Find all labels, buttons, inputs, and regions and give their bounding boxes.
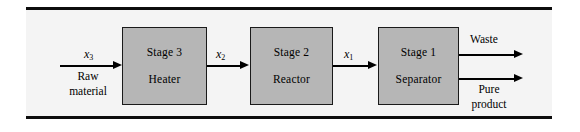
stage3-subtitle: Heater bbox=[123, 73, 206, 85]
process-flow-diagram: x3 Raw material Stage 3 Heater x2 Stage … bbox=[0, 0, 580, 132]
stream-label-x2: x2 bbox=[216, 47, 225, 62]
arrow-shaft-waste bbox=[459, 54, 515, 56]
arrow-head-x2 bbox=[240, 61, 249, 69]
figure-bottom-rule bbox=[26, 116, 552, 119]
output-label-waste: Waste bbox=[470, 33, 498, 45]
stream-label-x1: x1 bbox=[344, 47, 353, 62]
stream-label-x3: x3 bbox=[84, 47, 93, 62]
stage-box-stage1[interactable]: Stage 1 Separator bbox=[378, 27, 459, 105]
input-label-line2: material bbox=[52, 85, 124, 97]
stage-box-stage2[interactable]: Stage 2 Reactor bbox=[250, 27, 333, 105]
arrow-shaft-x2 bbox=[207, 65, 241, 67]
figure-top-rule bbox=[26, 7, 552, 10]
arrow-head-pure-product bbox=[514, 74, 523, 82]
stage1-subtitle: Separator bbox=[379, 73, 458, 85]
output-label-pure-line2: product bbox=[456, 98, 522, 110]
arrow-head-waste bbox=[514, 50, 523, 58]
stage-box-stage3[interactable]: Stage 3 Heater bbox=[122, 27, 207, 105]
arrow-shaft-pure-product bbox=[459, 78, 515, 80]
arrow-shaft-x1 bbox=[333, 65, 369, 67]
arrow-shaft-input bbox=[60, 65, 114, 67]
stage1-title: Stage 1 bbox=[379, 46, 458, 58]
stage2-subtitle: Reactor bbox=[251, 73, 332, 85]
output-label-pure-line1: Pure bbox=[462, 83, 516, 95]
arrow-head-x1 bbox=[368, 61, 377, 69]
arrow-head-input bbox=[113, 61, 122, 69]
input-label-line1: Raw bbox=[58, 70, 118, 82]
stage2-title: Stage 2 bbox=[251, 46, 332, 58]
stage3-title: Stage 3 bbox=[123, 46, 206, 58]
